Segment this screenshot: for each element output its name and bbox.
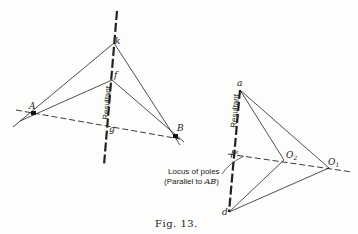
resultant-label-left: Resultant bbox=[101, 85, 113, 120]
line-a-k bbox=[13, 43, 114, 127]
label-o2: O2 bbox=[286, 150, 297, 161]
label-o1: O1 bbox=[328, 157, 339, 168]
label-f: f bbox=[113, 70, 119, 80]
label-a-right: a bbox=[237, 78, 242, 88]
label-e: e bbox=[235, 148, 239, 155]
ray-d-o1 bbox=[229, 168, 329, 212]
locus-label-line2: (Parallel to AB) bbox=[164, 177, 219, 186]
locus-label-line1: Locus of poles bbox=[168, 167, 220, 176]
ray-a-o1 bbox=[240, 90, 329, 168]
label-b: B bbox=[176, 123, 184, 133]
label-g: g bbox=[109, 124, 115, 134]
resultant-label-right: Resultant bbox=[229, 93, 241, 128]
figure-caption: Fig. 13. bbox=[155, 218, 198, 229]
line-f-b bbox=[112, 80, 184, 142]
space-diagram bbox=[13, 11, 184, 165]
ray-d-o2 bbox=[229, 160, 284, 212]
diagram-canvas: A B k f g Resultant a d e O2 O1 Resultan… bbox=[0, 0, 358, 234]
ray-a-o2 bbox=[240, 90, 284, 160]
line-ab bbox=[16, 110, 180, 139]
label-d: d bbox=[222, 207, 228, 217]
label-a: A bbox=[28, 101, 36, 111]
point-a-marker bbox=[31, 111, 36, 115]
figure-13: A B k f g Resultant a d e O2 O1 Resultan… bbox=[0, 0, 358, 234]
point-b-marker bbox=[173, 134, 178, 138]
label-k: k bbox=[115, 36, 120, 46]
tick-e bbox=[231, 150, 233, 158]
